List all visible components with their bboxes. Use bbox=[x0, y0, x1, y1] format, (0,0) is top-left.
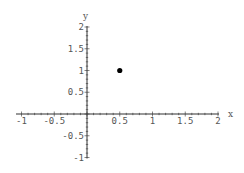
x-tick-label: 1 bbox=[150, 116, 155, 126]
x-tick-label: -0.5 bbox=[43, 116, 65, 126]
y-tick-label: -1 bbox=[73, 153, 84, 163]
x-tick-label: 2 bbox=[215, 116, 220, 126]
y-axis-label: y bbox=[82, 11, 89, 21]
x-axis-label: x bbox=[228, 109, 233, 119]
tick-labels: -1-0.50.511.5221.510.5-0.5-1 bbox=[16, 22, 221, 163]
axis-ticks bbox=[22, 27, 219, 158]
x-tick-label: -1 bbox=[16, 116, 27, 126]
data-points bbox=[117, 68, 122, 73]
chart-plot-area: -1-0.50.511.5221.510.5-0.5-1 x y bbox=[0, 0, 244, 173]
y-tick-label: 0.5 bbox=[68, 87, 84, 97]
y-tick-label: 1.5 bbox=[68, 44, 84, 54]
y-tick-label: 2 bbox=[79, 22, 84, 32]
x-tick-label: 1.5 bbox=[177, 116, 193, 126]
y-tick-label: 1 bbox=[79, 66, 84, 76]
axes bbox=[16, 26, 219, 159]
data-point bbox=[117, 68, 122, 73]
x-tick-label: 0.5 bbox=[112, 116, 128, 126]
y-tick-label: -0.5 bbox=[62, 131, 84, 141]
